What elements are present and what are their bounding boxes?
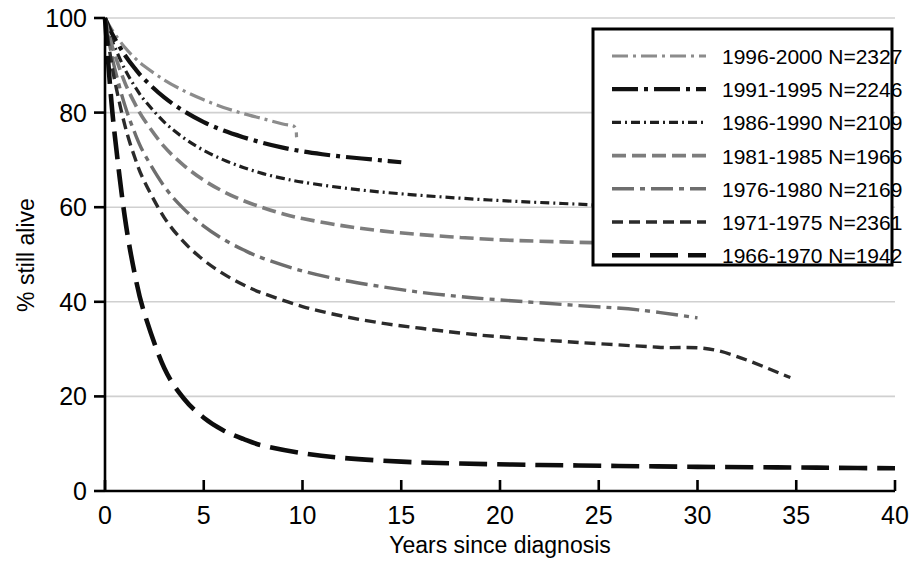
legend-label-1966-1970: 1966-1970 N=1942 — [722, 244, 902, 267]
x-tick-label-15: 15 — [387, 501, 415, 529]
x-tick-label-25: 25 — [585, 501, 613, 529]
x-tick-label-5: 5 — [197, 501, 211, 529]
legend-label-1991-1995: 1991-1995 N=2246 — [722, 78, 902, 101]
survival-curve-chart: 0510152025303540 020406080100 Years sinc… — [0, 0, 919, 571]
legend-label-1971-1975: 1971-1975 N=2361 — [722, 211, 902, 234]
x-tick-label-30: 30 — [684, 501, 712, 529]
chart-legend: 1996-2000 N=23271991-1995 N=22461986-199… — [593, 29, 902, 267]
y-tick-label-80: 80 — [59, 99, 87, 127]
x-tick-label-20: 20 — [486, 501, 514, 529]
y-tick-label-40: 40 — [59, 288, 87, 316]
legend-label-1986-1990: 1986-1990 N=2109 — [722, 111, 902, 134]
y-axis-title: % still alive — [13, 198, 39, 312]
y-tick-label-60: 60 — [59, 193, 87, 221]
y-tick-label-100: 100 — [45, 4, 87, 32]
y-tick-label-0: 0 — [73, 477, 87, 505]
y-tick-label-20: 20 — [59, 382, 87, 410]
legend-label-1976-1980: 1976-1980 N=2169 — [722, 178, 902, 201]
x-tick-label-0: 0 — [98, 501, 112, 529]
legend-label-1981-1985: 1981-1985 N=1966 — [722, 145, 902, 168]
x-axis-title: Years since diagnosis — [389, 532, 611, 558]
x-tick-label-10: 10 — [289, 501, 317, 529]
x-tick-label-35: 35 — [782, 501, 810, 529]
legend-label-1996-2000: 1996-2000 N=2327 — [722, 45, 902, 68]
chart-canvas: 0510152025303540 020406080100 Years sinc… — [0, 0, 919, 571]
x-tick-label-40: 40 — [881, 501, 909, 529]
